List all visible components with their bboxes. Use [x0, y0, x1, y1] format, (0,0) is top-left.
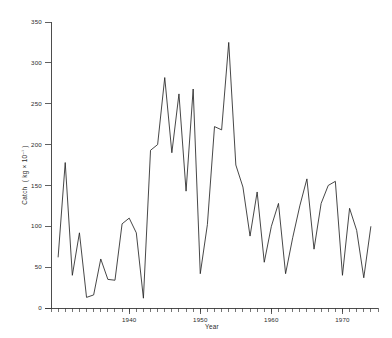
y-axis-title-main: Catch [21, 186, 28, 204]
x-tick-label: 1960 [264, 316, 279, 323]
x-axis-tick-labels: 1940195019601970 [122, 316, 350, 323]
x-axis-title: Year [205, 323, 220, 330]
y-tick-label: 100 [31, 222, 42, 229]
y-tick-label: 50 [35, 263, 43, 270]
y-tick-label: 350 [31, 18, 42, 25]
x-tick-label: 1950 [193, 316, 208, 323]
catch-vs-year-line-chart: 050100150200250300350 1940195019601970 Y… [0, 0, 392, 338]
x-axis-minor-ticks [51, 308, 378, 312]
catch-series-line [58, 42, 371, 298]
y-axis-title: Catch ( kg × 10−¹ ) [21, 145, 29, 204]
y-tick-label: 300 [31, 59, 42, 66]
y-axis-title-units-close: ) [21, 145, 29, 150]
x-tick-label: 1940 [122, 316, 137, 323]
y-tick-label: 200 [31, 141, 42, 148]
y-axis-tick-labels: 050100150200250300350 [31, 18, 42, 311]
y-tick-label: 250 [31, 100, 42, 107]
y-tick-label: 0 [38, 304, 42, 311]
y-axis-ticks [45, 22, 51, 308]
chart-canvas: 050100150200250300350 1940195019601970 Y… [0, 0, 392, 338]
y-axis-title-units: ( kg × 10 [21, 154, 29, 182]
x-tick-label: 1970 [335, 316, 350, 323]
y-axis-title-group: Catch ( kg × 10−¹ ) [21, 145, 29, 204]
y-tick-label: 150 [31, 182, 42, 189]
